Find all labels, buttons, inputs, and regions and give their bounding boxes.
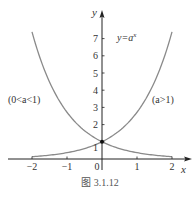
figure-caption: 图 3.1.12 bbox=[81, 177, 119, 188]
x-tick-label: 0 bbox=[95, 161, 100, 172]
points bbox=[100, 140, 104, 144]
y-tick-label: 2 bbox=[93, 119, 98, 130]
y-tick-label: 7 bbox=[93, 33, 98, 44]
x-tick-label: 1 bbox=[135, 161, 140, 172]
curve-formula-label: y=ax bbox=[116, 31, 137, 43]
y-tick-label: 5 bbox=[93, 68, 98, 79]
y-tick-label: 1 bbox=[93, 142, 98, 153]
x-tick-label: −1 bbox=[62, 161, 73, 172]
x-tick-label: 2 bbox=[170, 161, 175, 172]
x-axis-label: x bbox=[180, 163, 186, 175]
right-curve-label: (a>1) bbox=[152, 94, 174, 106]
y-tick-label: 6 bbox=[93, 50, 98, 61]
y-axis-label: y bbox=[91, 6, 97, 18]
x-tick-label: −2 bbox=[27, 161, 38, 172]
y-tick-label: 3 bbox=[93, 102, 98, 113]
left-curve-label: (0<a<1) bbox=[8, 94, 40, 106]
intersection-point bbox=[100, 140, 104, 144]
axes bbox=[8, 10, 192, 170]
exponential-chart: −2−10121234567 x y y=ax (0<a<1) (a>1) 图 … bbox=[0, 0, 196, 205]
y-tick-label: 4 bbox=[93, 85, 98, 96]
